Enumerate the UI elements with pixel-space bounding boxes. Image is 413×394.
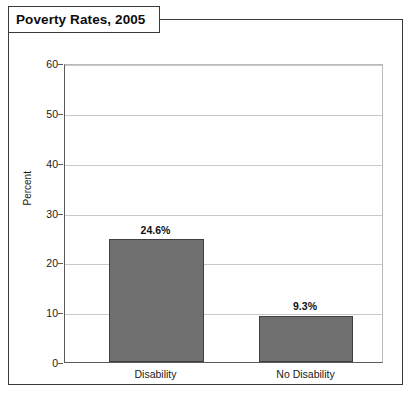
y-axis-title: Percent [22,176,33,206]
ytick-mark-0 [58,363,63,364]
ytick-mark-20 [58,263,63,264]
ytick-mark-10 [58,313,63,314]
bar-disability [109,239,204,362]
ytick-label-0: 0 [52,357,58,369]
ytick-label-20: 20 [46,257,58,269]
bar-value-disability: 24.6% [108,224,203,236]
figure-container: Poverty Rates, 2005 60 50 40 30 20 10 0 … [0,0,413,394]
plot-area [64,64,383,363]
bar-no-disability [259,316,353,362]
category-label-disability: Disability [98,368,213,380]
y-axis-tick-labels: 60 50 40 30 20 10 0 [34,64,58,363]
page-title: Poverty Rates, 2005 [9,12,145,27]
ytick-mark-60 [58,64,63,65]
bar-value-no-disability: 9.3% [258,300,352,312]
ytick-label-10: 10 [46,307,58,319]
gridline-40 [65,165,382,166]
category-label-no-disability: No Disability [248,368,363,380]
ytick-label-60: 60 [46,58,58,70]
gridline-50 [65,115,382,116]
ytick-mark-40 [58,164,63,165]
ytick-mark-30 [58,214,63,215]
gridline-30 [65,215,382,216]
chart-title-box: Poverty Rates, 2005 [8,6,160,33]
ytick-label-40: 40 [46,158,58,170]
ytick-label-50: 50 [46,108,58,120]
ytick-mark-50 [58,114,63,115]
gridline-60 [65,65,382,66]
ytick-label-30: 30 [46,208,58,220]
